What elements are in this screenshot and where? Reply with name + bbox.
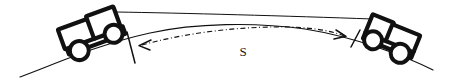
hill-distance-diagram: S [0,0,449,81]
right-truck [359,14,421,66]
sight-line-chord [116,12,372,19]
distance-label: S [239,44,246,59]
figure-container: S [0,0,449,81]
right-extension-tick [351,30,360,47]
left-truck [57,6,129,64]
distance-dimension-line [142,27,344,45]
left-arrowhead-icon [139,40,151,50]
